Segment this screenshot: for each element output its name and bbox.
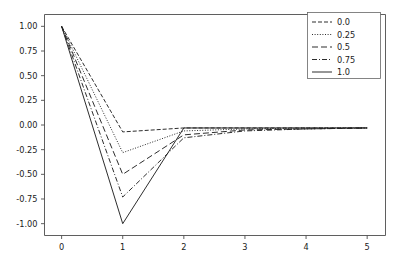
x-tick-label: 3: [242, 242, 247, 252]
x-tick-label: 2: [181, 242, 186, 252]
y-tick-label: -0.75: [16, 194, 37, 204]
legend-label-0-5[interactable]: 0.5: [337, 42, 350, 52]
legend-label-0-0[interactable]: 0.0: [337, 17, 350, 27]
y-tick-label: 1.00: [19, 21, 37, 31]
chart-legend[interactable]: 0.00.250.50.751.0: [308, 13, 381, 79]
y-tick-label: -0.25: [16, 145, 37, 155]
x-tick-label: 5: [365, 242, 370, 252]
y-tick-label: 0.00: [19, 120, 37, 130]
x-tick-label: 1: [120, 242, 125, 252]
y-tick-label: -0.50: [16, 169, 37, 179]
y-tick-label: -1.00: [16, 219, 37, 229]
x-axis-ticks: 012345: [59, 236, 370, 252]
x-tick-label: 4: [303, 242, 308, 252]
y-tick-label: 0.50: [19, 71, 37, 81]
legend-label-1-0[interactable]: 1.0: [337, 67, 350, 77]
legend-label-0-75[interactable]: 0.75: [337, 55, 355, 65]
line-chart-plot: 1.000.750.500.250.00-0.25-0.50-0.75-1.00…: [0, 0, 398, 268]
y-tick-label: 0.75: [19, 46, 37, 56]
y-axis-ticks: 1.000.750.500.250.00-0.25-0.50-0.75-1.00: [16, 21, 44, 228]
chart-figure: 1.000.750.500.250.00-0.25-0.50-0.75-1.00…: [0, 0, 398, 268]
y-tick-label: 0.25: [19, 95, 37, 105]
legend-label-0-25[interactable]: 0.25: [337, 30, 355, 40]
x-tick-label: 0: [59, 242, 64, 252]
